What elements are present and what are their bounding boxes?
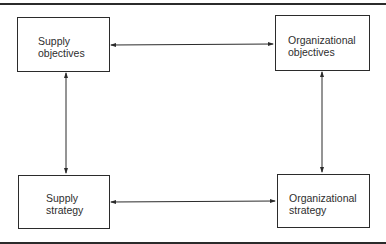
label-line-2: objectives xyxy=(288,46,356,58)
node-supply-strategy: Supply strategy xyxy=(18,175,110,229)
arrow-supply-strat-org-strat xyxy=(111,201,275,202)
label-line-1: Supply xyxy=(38,35,85,47)
label-line-1: Organizational xyxy=(288,34,356,46)
label-line-1: Supply xyxy=(46,192,83,204)
node-label: Supply objectives xyxy=(38,35,85,59)
node-organizational-objectives: Organizational objectives xyxy=(275,15,370,71)
node-organizational-strategy: Organizational strategy xyxy=(277,174,370,228)
label-line-1: Organizational xyxy=(289,192,357,204)
node-supply-objectives: Supply objectives xyxy=(17,17,110,72)
label-line-2: strategy xyxy=(289,204,357,216)
label-line-2: strategy xyxy=(46,204,83,216)
node-label: Supply strategy xyxy=(46,192,83,216)
arrow-supply-obj-org-obj xyxy=(111,44,273,45)
label-line-2: objectives xyxy=(38,47,85,59)
node-label: Organizational strategy xyxy=(289,192,357,216)
node-label: Organizational objectives xyxy=(288,34,356,58)
